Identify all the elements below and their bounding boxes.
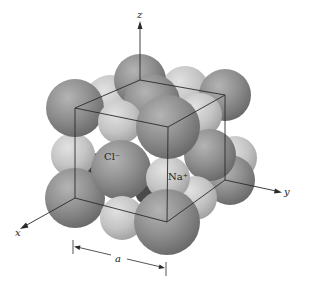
na-ion-label: Na⁺	[168, 171, 188, 182]
cl-ion	[91, 140, 151, 200]
y-axis-label: y	[283, 186, 290, 197]
x-axis-label: x	[15, 227, 21, 238]
lattice-constant-label: a	[115, 253, 121, 264]
na-ion	[98, 100, 142, 144]
cl-ion-label: Cl⁻	[104, 151, 120, 162]
z-axis-label: z	[136, 9, 143, 20]
nacl-crystal-diagram: z x y a Cl⁻ Na⁺	[0, 0, 310, 298]
y-axis-arrowhead	[274, 189, 282, 194]
z-axis-arrowhead	[138, 21, 143, 29]
x-axis-arrowhead	[20, 223, 29, 230]
